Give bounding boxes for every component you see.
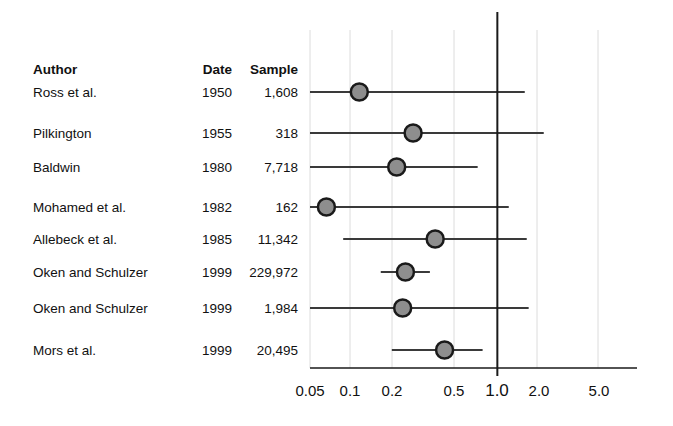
x-tick-label-1: 0.1: [340, 382, 361, 399]
forest-plot-canvas: [0, 0, 673, 426]
x-tick-label-4: 1.0: [485, 381, 509, 401]
x-tick-label-0: 0.05: [295, 382, 324, 399]
estimate-markers-group: [318, 84, 453, 359]
x-tick-label-6: 5.0: [589, 382, 610, 399]
x-tick-label-2: 0.2: [382, 382, 403, 399]
x-tick-label-3: 0.5: [444, 382, 465, 399]
gridlines-group: [310, 30, 598, 368]
estimate-marker: [388, 159, 405, 176]
estimate-marker: [351, 84, 368, 101]
estimate-marker: [318, 199, 335, 216]
estimate-marker: [394, 300, 411, 317]
x-tick-label-5: 2.0: [529, 382, 550, 399]
estimate-marker: [397, 264, 414, 281]
estimate-marker: [405, 125, 422, 142]
estimate-marker: [427, 231, 444, 248]
estimate-marker: [436, 342, 453, 359]
confidence-interval-group: [310, 92, 544, 350]
